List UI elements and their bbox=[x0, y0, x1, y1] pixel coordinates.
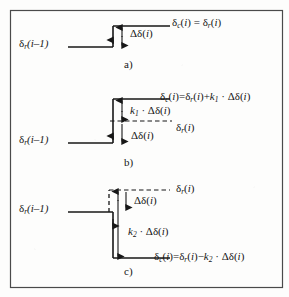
panel-c-delta-label: Δδ(i) bbox=[134, 195, 157, 206]
panel-a-graphics bbox=[68, 26, 170, 47]
panel-c-reference-level-label: δr(i) bbox=[176, 183, 195, 194]
panel-c-equation: δc(i)=δr(i)−k2 · Δδ(i) bbox=[154, 251, 244, 262]
panel-b-k1-delta-label: k1 · Δδ(i) bbox=[130, 105, 170, 116]
panel-c-left-label: δr(i–1) bbox=[19, 203, 49, 214]
panel-b-equation: δc(i)=δr(i)+k1 · Δδ(i) bbox=[160, 91, 250, 102]
panel-a-delta-label: Δδ(i) bbox=[130, 28, 153, 39]
panel-c-letter: c) bbox=[124, 266, 133, 277]
panel-a-equation: δc(i) = δr(i) bbox=[172, 17, 221, 28]
panel-a-left-label: δr(i–1) bbox=[19, 38, 49, 49]
panel-b-delta-label: Δδ(i) bbox=[131, 130, 154, 141]
panel-b-reference-level-label: δr(i) bbox=[176, 122, 195, 133]
panel-b-left-label: δr(i–1) bbox=[19, 134, 49, 145]
panel-b-letter: b) bbox=[124, 157, 133, 168]
figure-container: δr(i–1) Δδ(i) δc(i) = δr(i) a) δr(i–1) k… bbox=[0, 0, 289, 297]
panel-c-k2-delta-label: k2 · Δδ(i) bbox=[128, 226, 168, 237]
panel-a-letter: a) bbox=[124, 59, 133, 70]
figure-border bbox=[11, 11, 283, 288]
